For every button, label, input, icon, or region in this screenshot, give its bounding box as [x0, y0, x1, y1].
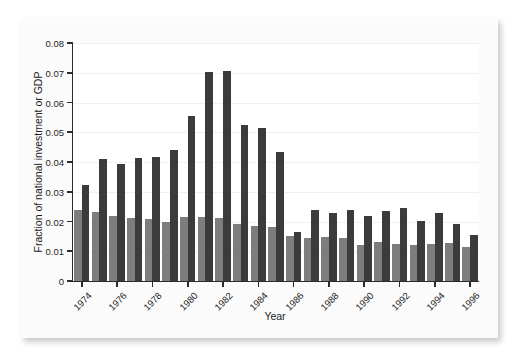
plot-area: 00.010.020.030.040.050.060.070.081974197… [72, 43, 479, 282]
y-axis-title-text: Fraction of national investment or GDP [32, 72, 44, 253]
bar [74, 210, 82, 281]
bar [417, 221, 425, 281]
x-axis-tick [116, 281, 118, 287]
y-axis-tick [67, 250, 73, 252]
bar [241, 125, 249, 281]
bar [374, 242, 382, 281]
bar [286, 236, 294, 281]
y-axis-tick [67, 191, 73, 193]
y-axis-tick-label: 0.07 [46, 67, 65, 78]
bar [99, 159, 107, 281]
y-axis-title: Fraction of national investment or GDP [30, 43, 46, 281]
bar [180, 217, 188, 281]
y-axis-tick [67, 161, 73, 163]
bar [311, 210, 319, 281]
bar [445, 243, 453, 281]
bar [453, 224, 461, 281]
y-axis-tick-label: 0.04 [46, 157, 65, 168]
x-axis-tick [469, 281, 471, 287]
bar [462, 247, 470, 281]
bar [215, 218, 223, 281]
bar [198, 217, 206, 281]
bar [339, 238, 347, 281]
bar [117, 164, 125, 281]
bar [162, 222, 170, 282]
bar [109, 216, 117, 281]
bar [152, 157, 160, 281]
y-axis-tick-label: 0.02 [46, 216, 65, 227]
y-axis-tick [67, 131, 73, 133]
y-axis-tick [67, 221, 73, 223]
gridline [73, 73, 479, 74]
bar [135, 158, 143, 281]
bar [427, 244, 435, 281]
y-axis-tick-label: 0.08 [46, 38, 65, 49]
bar [321, 237, 329, 281]
bar [382, 211, 390, 281]
figure-card: Fraction of national investment or GDP 0… [21, 18, 498, 338]
bar [294, 232, 302, 281]
bar [188, 116, 196, 281]
x-axis-tick [399, 281, 401, 287]
bar [251, 226, 259, 281]
bar [258, 128, 266, 282]
x-axis-tick [434, 281, 436, 287]
bar [470, 235, 478, 281]
x-axis-tick [258, 281, 260, 287]
bar [170, 150, 178, 281]
x-axis-tick [81, 281, 83, 287]
gridline [73, 103, 479, 104]
gridline [73, 132, 479, 133]
x-axis-tick [152, 281, 154, 287]
y-axis-tick [67, 42, 73, 44]
y-axis-tick-label: 0.01 [46, 246, 65, 257]
x-axis-title: Year [72, 310, 478, 322]
bar [400, 208, 408, 281]
y-axis-tick-label: 0.06 [46, 97, 65, 108]
bar [127, 218, 135, 281]
x-axis-tick [328, 281, 330, 287]
bar [329, 213, 337, 281]
y-axis-tick [67, 280, 73, 282]
bar [276, 152, 284, 281]
y-axis-tick [67, 102, 73, 104]
bar [233, 224, 241, 281]
bar [145, 219, 153, 281]
bar [410, 245, 418, 281]
figure-page: Fraction of national investment or GDP 0… [0, 0, 519, 362]
bar [392, 244, 400, 281]
x-axis-tick [293, 281, 295, 287]
bar [205, 72, 213, 281]
bar [304, 238, 312, 281]
x-axis-tick [187, 281, 189, 287]
bar [268, 227, 276, 281]
bar [357, 245, 365, 281]
x-axis-tick [363, 281, 365, 287]
y-axis-tick-label: 0.05 [46, 127, 65, 138]
gridline [73, 43, 479, 44]
y-axis-tick-label: 0.03 [46, 186, 65, 197]
bar [223, 71, 231, 281]
x-axis-tick [222, 281, 224, 287]
y-axis-tick-label: 0 [59, 276, 64, 287]
bar [347, 210, 355, 281]
bar [364, 216, 372, 281]
bar [92, 212, 100, 281]
bar [82, 185, 90, 281]
y-axis-tick [67, 72, 73, 74]
bar [435, 213, 443, 281]
